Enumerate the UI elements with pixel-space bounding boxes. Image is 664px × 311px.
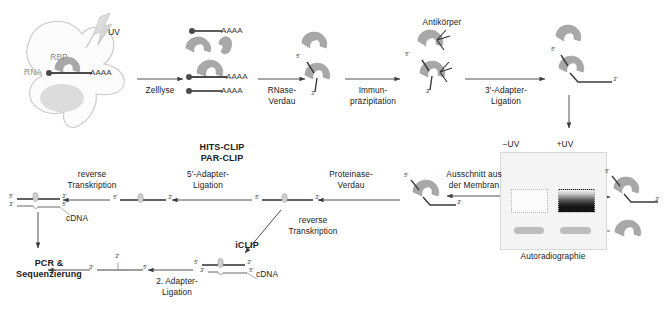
prime-3-cdna-top: 3' xyxy=(62,193,66,199)
prime-3-cdna-iclip-lower: 3' xyxy=(200,267,204,273)
prime-5-adapter3: 5' xyxy=(551,46,555,52)
prime-5-rna2: 5' xyxy=(113,194,117,200)
prime-3-membrane: 3' xyxy=(655,196,659,202)
step-immunpraezipitation: Immun- präzipitation xyxy=(340,85,406,106)
antibody-complex xyxy=(418,30,452,90)
step-ausschnitt-membran: Ausschnitt aus der Membran xyxy=(436,169,512,190)
free-protein-1 xyxy=(186,37,211,52)
lysate-contents xyxy=(186,28,232,94)
prime-3-cdna-iclip: 3' xyxy=(247,259,251,265)
cdna-label-top: cDNA xyxy=(66,213,106,224)
step-adapter3-ligation: 3'-Adapter- Ligation xyxy=(473,85,539,106)
cdna-truncation xyxy=(33,206,38,208)
method-par-clip: PAR-CLIP xyxy=(182,153,262,164)
crosslink-remnant xyxy=(282,194,287,203)
step-adapter2-ligation: 2. Adapter- Ligation xyxy=(144,276,210,297)
gel-lane-minus-uv xyxy=(511,189,548,213)
gel-label-plus-uv: +UV xyxy=(548,139,582,150)
polya-tail-bound: AAAA xyxy=(226,72,260,83)
gel-lane-plus-uv-band xyxy=(558,189,595,213)
step-zelllyse: Zelllyse xyxy=(131,85,189,96)
polya-tail-cell: AAAA xyxy=(90,68,126,79)
prime-5-rna1: 5' xyxy=(255,194,259,200)
prime-5-membrane: 5' xyxy=(605,168,609,174)
prime-3-ip: 3' xyxy=(426,88,430,94)
cdna-label-iclip: cDNA xyxy=(256,269,296,280)
prime-3-rnase: 3' xyxy=(311,90,315,96)
antikoerper-label: Antikörper xyxy=(412,17,472,28)
gel-label-minus-uv: −UV xyxy=(494,139,528,150)
rna-with-crosslink-1 xyxy=(262,194,313,203)
rbp-label: RBP xyxy=(40,52,78,63)
rna-with-crosslink-2 xyxy=(120,194,166,203)
prime-3-circ: 3' xyxy=(89,264,93,270)
adapter3-strand xyxy=(570,73,612,82)
autoradiographie-label: Autoradiographie xyxy=(505,251,601,262)
prime-5-ip: 5' xyxy=(405,51,409,57)
outcome-pcr-sequenzierung: PCR & Sequenzierung xyxy=(3,258,95,280)
prime-5-proteinase-in: 5' xyxy=(404,172,408,178)
step-rnase-verdau: RNase- Verdau xyxy=(253,85,311,106)
step-proteinase-verdau: Proteinase- Verdau xyxy=(318,169,384,190)
prime-5-circ: 5' xyxy=(143,264,147,270)
bound-protein xyxy=(197,60,223,76)
prime-3-cdna-top-lower: 3' xyxy=(9,201,13,207)
figure-canvas: RBP RNA UV AAAA AAAA AAAA AAAA Zelllyse … xyxy=(0,0,664,311)
prime-5-cdna-top: 5' xyxy=(9,193,13,199)
gel-smear-minus-uv xyxy=(514,227,544,234)
polya-tail-free-1: AAAA xyxy=(221,26,255,37)
rna-label: RNA xyxy=(14,67,52,78)
prime-5-rnase: 5' xyxy=(296,53,300,59)
free-protein-2 xyxy=(219,37,232,54)
step-reverse-transkription-top: reverse Transkription xyxy=(59,169,125,190)
prime-3-proteinase-in: 3' xyxy=(457,199,461,205)
rnase-product xyxy=(302,32,330,92)
method-iclip: iCLIP xyxy=(222,240,272,251)
adapter3-product xyxy=(556,25,612,128)
prime-3-rna2: 3' xyxy=(168,194,172,200)
gel-smear-plus-uv xyxy=(560,227,591,234)
circular-cdna xyxy=(97,263,143,270)
uv-label: UV xyxy=(101,27,127,38)
step-adapter5-ligation: 5'-Adapter- Ligation xyxy=(175,169,241,190)
prime-5-cdna-top-lower: 5' xyxy=(62,201,66,207)
cell-nucleus xyxy=(40,84,84,112)
prime-3-adapter3: 3' xyxy=(613,76,617,82)
free-protein-gel xyxy=(615,220,641,236)
step-reverse-transkription-iclip: reverse Transkription xyxy=(280,215,346,236)
prime-5-cdna-iclip: 5' xyxy=(194,259,198,265)
polya-tail-free-2: AAAA xyxy=(221,86,255,97)
prime-5-cdna-iclip-lower: 5' xyxy=(249,267,253,273)
method-hits-clip: HITS-CLIP xyxy=(182,142,262,153)
prime-3-circ-top: 3' xyxy=(115,253,119,259)
autoradiography-gel-panel xyxy=(500,152,607,250)
prime-3-rna1: 3' xyxy=(315,194,319,200)
